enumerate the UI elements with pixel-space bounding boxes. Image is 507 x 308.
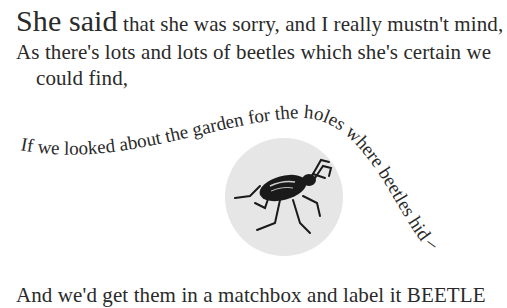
poem-line-5: And we'd get them in a matchbox and labe… [16,283,486,308]
svg-text:If we looked about the garden: If we looked about the garden for the ho… [19,101,443,254]
curved-line-text: If we looked about the garden for the ho… [19,101,443,254]
